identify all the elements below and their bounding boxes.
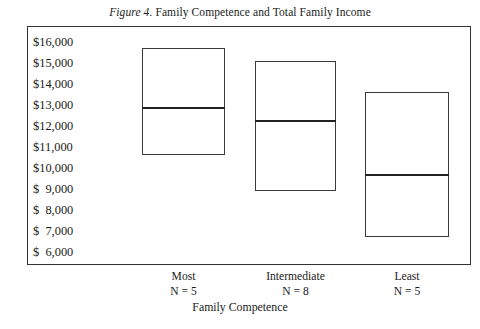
x-axis-category-sample-size: N = 5: [335, 285, 479, 300]
y-axis-tick-label: $ 8,000: [33, 204, 105, 216]
y-axis-tick-label: $16,000: [33, 36, 105, 48]
y-axis-tick-label: $12,000: [33, 120, 105, 132]
box-plot-box: [365, 92, 449, 237]
figure-number-label: Figure 4.: [109, 6, 152, 18]
y-axis-tick-label: $ 6,000: [33, 246, 105, 258]
y-axis-tick-label: $11,000: [33, 141, 105, 153]
y-axis-tick-label: $ 9,000: [33, 183, 105, 195]
y-axis-tick-label: $10,000: [33, 162, 105, 174]
y-axis-tick-label: $14,000: [33, 78, 105, 90]
box-plot-median-line: [255, 120, 336, 122]
box-plot-box: [255, 61, 336, 191]
box-plot-box: [142, 48, 225, 155]
x-axis-category-name: Least: [335, 270, 479, 285]
figure-title-text: Family Competence and Total Family Incom…: [152, 6, 370, 18]
y-axis-tick-label: $13,000: [33, 99, 105, 111]
x-axis-title: Family Competence: [0, 300, 480, 315]
box-plot-median-line: [365, 174, 449, 176]
x-axis-category: LeastN = 5: [335, 270, 479, 299]
box-plot-median-line: [142, 107, 225, 109]
figure-container: Figure 4. Family Competence and Total Fa…: [0, 0, 480, 329]
y-axis-tick-label: $15,000: [33, 57, 105, 69]
y-axis-tick-label: $ 7,000: [33, 225, 105, 237]
figure-title: Figure 4. Family Competence and Total Fa…: [0, 6, 480, 18]
